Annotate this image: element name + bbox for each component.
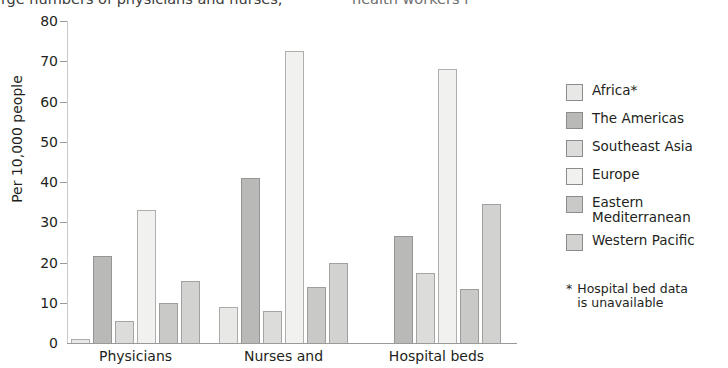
y-tick-mark (60, 263, 67, 264)
y-tick-label: 0 (24, 336, 58, 350)
y-tick-label: 10 (24, 296, 58, 310)
legend-swatch-icon (566, 196, 583, 213)
caption-fragment-left: arge numbers of physicians and nurses, (0, 0, 282, 7)
bar (71, 339, 90, 343)
legend-item-label: The Americas (592, 111, 684, 126)
y-tick-mark (60, 303, 67, 304)
legend-item-label: Eastern Mediterranean (592, 195, 691, 225)
y-tick-label: 20 (24, 256, 58, 270)
bar (137, 210, 156, 343)
y-tick-mark (60, 102, 67, 103)
bar (159, 303, 178, 343)
y-tick-mark (60, 142, 67, 143)
bar (93, 256, 112, 343)
y-tick-mark (60, 21, 67, 22)
legend-item[interactable]: Europe (566, 167, 639, 185)
bar (181, 281, 200, 343)
y-tick-label: 40 (24, 175, 58, 189)
y-axis-tick-labels: 01020304050607080 (10, 13, 58, 353)
legend-swatch-icon (566, 84, 583, 101)
bar (115, 321, 134, 343)
legend-swatch-icon (566, 234, 583, 251)
bar (263, 311, 282, 343)
bar (241, 178, 260, 343)
y-tick-label: 80 (24, 14, 58, 28)
legend-item[interactable]: Africa* (566, 83, 637, 101)
legend-swatch-icon (566, 112, 583, 129)
y-tick-label: 30 (24, 215, 58, 229)
footnote-marker: * (566, 282, 572, 309)
bar (416, 273, 435, 343)
legend-item-label: Southeast Asia (592, 139, 693, 154)
cut-off-caption-strip: arge numbers of physicians and nurses, h… (0, 0, 728, 13)
y-tick-mark (60, 61, 67, 62)
legend-footnote: * Hospital bed data is unavailable (566, 282, 728, 309)
legend-swatch-icon (566, 140, 583, 157)
y-tick-label: 70 (24, 54, 58, 68)
bar (285, 51, 304, 343)
x-axis-line (67, 343, 517, 344)
legend-swatch-icon (566, 168, 583, 185)
bar (329, 263, 348, 344)
bar (482, 204, 501, 343)
legend-item[interactable]: Eastern Mediterranean (566, 195, 691, 225)
y-tick-mark (60, 222, 67, 223)
bar-chart: Per 10,000 people 01020304050607080 Phys… (0, 13, 530, 368)
bar (460, 289, 479, 343)
footnote-text: Hospital bed data is unavailable (577, 282, 688, 309)
bar (307, 287, 326, 343)
y-tick-mark (60, 182, 67, 183)
x-axis-group-label: Hospital beds (367, 349, 507, 364)
caption-fragment-right: health workers i (352, 0, 468, 7)
y-tick-label: 60 (24, 95, 58, 109)
legend-item-label: Europe (592, 167, 639, 182)
bars-layer (67, 13, 519, 343)
legend-item-label: Africa* (592, 83, 637, 98)
bar (438, 69, 457, 343)
bar (394, 236, 413, 343)
x-axis-group-label: Nurses and (214, 349, 354, 364)
bar (219, 307, 238, 343)
legend-item[interactable]: Southeast Asia (566, 139, 693, 157)
legend-item[interactable]: The Americas (566, 111, 684, 129)
y-tick-label: 50 (24, 135, 58, 149)
x-axis-group-label: Physicians (66, 349, 206, 364)
legend-item-label: Western Pacific (592, 233, 695, 248)
legend-item[interactable]: Western Pacific (566, 233, 695, 251)
